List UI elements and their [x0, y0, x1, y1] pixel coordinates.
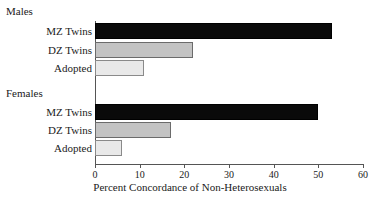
x-axis-title: Percent Concordance of Non-Heterosexuals: [0, 181, 380, 194]
bar-males-dz-twins: [95, 42, 193, 58]
category-label-males-dz-twins: DZ Twins: [0, 44, 92, 56]
group-header-females: Females: [6, 87, 43, 99]
x-axis-tick-label: 30: [224, 169, 234, 180]
x-axis-tick: [274, 164, 275, 168]
category-label-females-mz-twins: MZ Twins: [0, 106, 92, 118]
x-axis-tick: [363, 164, 364, 168]
plot-area: [95, 21, 363, 160]
bar-males-mz-twins: [95, 23, 332, 39]
group-header-males: Males: [6, 5, 33, 17]
category-label-females-adopted: Adopted: [0, 142, 92, 154]
category-label-males-mz-twins: MZ Twins: [0, 25, 92, 37]
x-axis-tick-label: 10: [135, 169, 145, 180]
x-axis-tick-label: 50: [313, 169, 323, 180]
x-axis-tick-label: 20: [179, 169, 189, 180]
category-label-females-dz-twins: DZ Twins: [0, 124, 92, 136]
x-axis-tick: [140, 164, 141, 168]
x-axis-tick-label: 60: [358, 169, 368, 180]
x-axis-tick: [318, 164, 319, 168]
bar-females-dz-twins: [95, 122, 171, 138]
category-label-males-adopted: Adopted: [0, 62, 92, 74]
x-axis-tick: [184, 164, 185, 168]
x-axis-tick: [229, 164, 230, 168]
x-axis-tick: [95, 164, 96, 168]
bar-females-mz-twins: [95, 104, 318, 120]
bar-males-adopted: [95, 60, 144, 76]
bar-chart: Males Females MZ Twins DZ Twins Adopted …: [0, 0, 380, 199]
bar-females-adopted: [95, 140, 122, 156]
x-axis-tick-label: 40: [269, 169, 279, 180]
x-axis-tick-label: 0: [93, 169, 98, 180]
